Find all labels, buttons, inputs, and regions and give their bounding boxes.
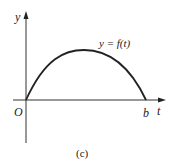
figure-caption: (c) (76, 147, 89, 160)
x-axis-arrow-icon (158, 98, 166, 103)
y-axis-label: y (14, 10, 21, 24)
curve-f-of-t (26, 50, 146, 100)
b-tick-label: b (143, 106, 149, 120)
y-axis-arrow-icon (24, 11, 29, 19)
origin-label: O (14, 105, 23, 119)
figure-canvas: y t O b y = f(t) (c) (0, 0, 169, 163)
curve-label: y = f(t) (98, 37, 131, 50)
x-axis-label: t (157, 104, 161, 118)
